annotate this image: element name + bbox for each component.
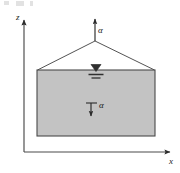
x-axis-label: x [169,157,173,166]
acceleration-inner-label: α [99,101,104,110]
diagram-svg [0,0,180,173]
suspension-line-left [38,41,96,70]
figure-canvas: z x α α [0,0,180,173]
z-axis-label: z [16,13,20,22]
suspension-line-right [95,41,155,70]
acceleration-top-label: α [98,26,103,35]
